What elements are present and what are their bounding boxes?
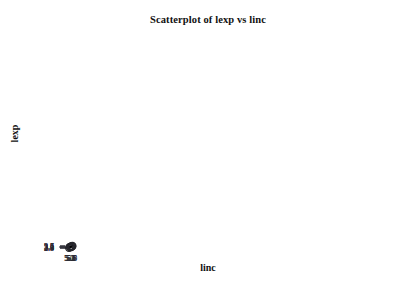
plot-area: 2.82.93.03.13.23.33.43.53.63.75.05.15.25…	[0, 0, 416, 285]
y-tick-label: 3.7	[22, 241, 54, 250]
plot-canvas	[0, 0, 416, 285]
x-axis-title: linc	[0, 262, 416, 273]
y-axis-title: lexp	[9, 125, 20, 143]
scatterplot-figure: Scatterplot of lexp vs linc 2.82.93.03.1…	[0, 0, 416, 285]
